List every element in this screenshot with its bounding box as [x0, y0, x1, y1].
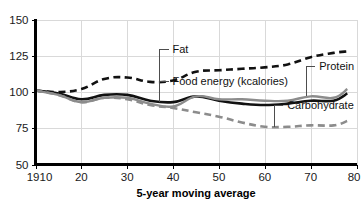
- series-annotation-label: Protein: [319, 60, 354, 72]
- x-tick-label: 1910: [27, 171, 53, 183]
- chart-figure: 5075100125150191020304050607080 FatFood …: [0, 0, 364, 214]
- x-tick-label: 70: [304, 171, 317, 183]
- caption-group: 5-year moving average: [136, 187, 255, 199]
- annotation-leader-line: [159, 81, 168, 102]
- y-tick-label: 150: [9, 14, 28, 26]
- series-group: [36, 51, 348, 127]
- series-annotation-label: Food energy (kcalories): [172, 75, 288, 87]
- x-axis-caption: 5-year moving average: [136, 187, 255, 199]
- x-tick-label: 80: [348, 171, 361, 183]
- y-tick-label: 75: [16, 122, 29, 134]
- annotation-leader-line: [274, 106, 283, 127]
- x-tick-label: 20: [75, 171, 88, 183]
- x-tick-label: 50: [213, 171, 226, 183]
- annotation-leader-line: [159, 49, 168, 82]
- gridlines-group: [36, 20, 358, 165]
- series-annotation-label: Fat: [172, 43, 188, 55]
- axes-group: [32, 19, 358, 169]
- annotations-group: FatFood energy (kcalories)ProteinCarbohy…: [159, 43, 354, 127]
- y-tick-label: 50: [16, 159, 29, 171]
- x-tick-label: 30: [121, 171, 134, 183]
- series-annotation-label: Carbohydrate: [287, 99, 354, 111]
- x-tick-label: 60: [258, 171, 271, 183]
- line-chart-plot: 5075100125150191020304050607080 FatFood …: [0, 0, 364, 214]
- y-tick-label: 100: [9, 86, 28, 98]
- y-tick-label: 125: [9, 50, 28, 62]
- x-tick-label: 40: [167, 171, 180, 183]
- annotation-leader-line: [306, 67, 315, 97]
